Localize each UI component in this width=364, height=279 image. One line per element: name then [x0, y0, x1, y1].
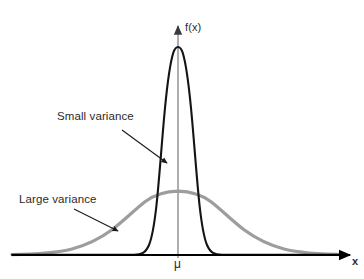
- small-variance-label: Small variance: [57, 111, 134, 123]
- large-variance-label: Large variance: [19, 194, 96, 206]
- small-variance-leader-arrow: [122, 130, 167, 163]
- small-variance-curve: [12, 47, 346, 255]
- x-axis-label: x: [352, 256, 358, 267]
- mean-tick-label: μ: [174, 258, 181, 270]
- plot-area: [0, 0, 364, 279]
- large-variance-leader-arrow: [74, 209, 118, 231]
- y-axis-label: f(x): [185, 22, 201, 33]
- normal-distribution-figure: Small variance Large variance f(x) x μ: [0, 0, 364, 279]
